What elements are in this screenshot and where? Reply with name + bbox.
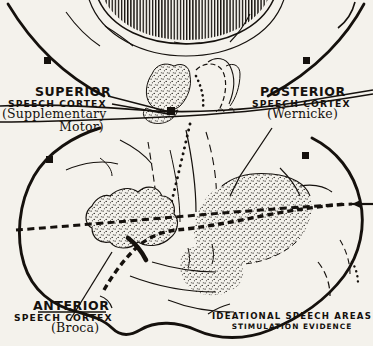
caption-line1: IDEATIONAL SPEECH AREAS xyxy=(212,312,372,321)
figure-caption: IDEATIONAL SPEECH AREAS STIMULATION EVID… xyxy=(212,312,372,330)
paper-background xyxy=(0,0,373,346)
marker-square-lower-right xyxy=(302,152,309,159)
label-superior-speech-cortex: SUPERIOR SPEECH CORTEX (Supplementary Mo… xyxy=(2,86,111,134)
brain-speech-areas-diagram xyxy=(0,0,373,346)
label-posterior-line1: POSTERIOR xyxy=(249,86,351,99)
label-superior-line4: Motor) xyxy=(2,121,111,134)
label-anterior-speech-cortex: ANTERIOR SPEECH CORTEX (Broca) xyxy=(14,300,113,335)
label-anterior-line3: (Broca) xyxy=(14,322,113,335)
marker-square-lower-left xyxy=(46,156,53,163)
marker-square-upper-left xyxy=(44,57,51,64)
caption-line2: STIMULATION EVIDENCE xyxy=(212,323,372,331)
label-posterior-speech-cortex: POSTERIOR SPEECH CORTEX (Wernicke) xyxy=(249,86,351,121)
label-superior-line1: SUPERIOR xyxy=(2,86,111,99)
label-anterior-line1: ANTERIOR xyxy=(14,300,113,313)
marker-square-upper-right xyxy=(303,57,310,64)
label-posterior-line3: (Wernicke) xyxy=(249,108,351,121)
